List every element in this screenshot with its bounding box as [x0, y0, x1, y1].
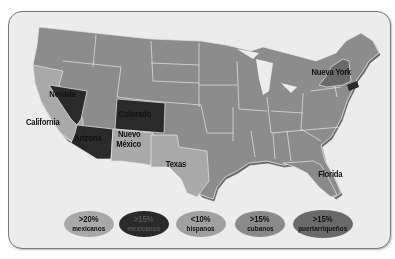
legend-cubanos-15: >15% cubanos — [235, 211, 285, 237]
label-nuevo-mexico-line2: México — [116, 139, 141, 149]
label-nuevo-mexico-line1: Nuevo — [118, 129, 141, 139]
label-california: California — [26, 117, 60, 127]
state-florida — [283, 161, 337, 197]
legend-mexicanos-15: >15% mexicanos — [119, 211, 169, 237]
label-arizona: Arizona — [74, 133, 101, 143]
legend-mexicanos-20: >20% mexicanos — [64, 211, 114, 237]
legend-hispanos-10: <10% hispanos — [176, 211, 226, 237]
label-colorado: Colorado — [119, 109, 151, 119]
label-florida: Florida — [318, 169, 342, 179]
map-frame: Nevada Colorado California Arizona Nuevo… — [8, 11, 391, 249]
label-nueva-york: Nueva York — [312, 67, 352, 77]
legend-puertorriquenos-15: >15% puertarriqueños — [293, 210, 353, 238]
label-texas: Texas — [166, 159, 186, 169]
label-nevada: Nevada — [49, 89, 75, 99]
